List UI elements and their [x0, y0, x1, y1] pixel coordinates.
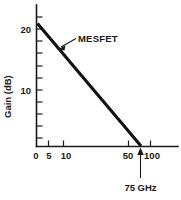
cutoff-annotation-label: 75 GHz: [124, 182, 156, 193]
y-axis-ticks: [37, 17, 43, 138]
mesfet-callout-leader: [57, 39, 76, 51]
y-tick-label-10: 10: [20, 85, 31, 96]
x-tick-label-50: 50: [123, 150, 134, 161]
chart-figure: 20 10 Gain (dB) 0 5 10 50 100 MESFET: [0, 0, 181, 200]
y-axis-title: Gain (dB): [2, 75, 13, 118]
x-tick-label-100: 100: [144, 150, 160, 161]
y-tick-label-20: 20: [20, 24, 31, 35]
cutoff-annotation-arrow: [137, 148, 143, 179]
gain-vs-frequency-chart: 20 10 Gain (dB) 0 5 10 50 100 MESFET: [0, 0, 181, 200]
x-tick-label-5: 5: [46, 150, 52, 161]
mesfet-series-label: MESFET: [78, 33, 118, 44]
x-tick-label-0: 0: [33, 150, 38, 161]
x-tick-label-10: 10: [61, 150, 72, 161]
